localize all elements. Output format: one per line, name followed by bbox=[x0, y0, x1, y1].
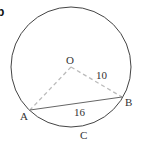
point-label-B: B bbox=[125, 96, 132, 108]
figure-corner-label: b bbox=[0, 5, 4, 19]
circle-chord-diagram: b O 10 A B 16 C bbox=[0, 0, 141, 143]
point-label-A: A bbox=[20, 110, 28, 122]
point-label-O: O bbox=[66, 54, 74, 66]
segment-label-AB: 16 bbox=[74, 106, 86, 118]
point-label-C: C bbox=[80, 129, 87, 141]
segment-label-OB: 10 bbox=[96, 69, 108, 81]
radius-OA-dashed bbox=[30, 67, 71, 110]
